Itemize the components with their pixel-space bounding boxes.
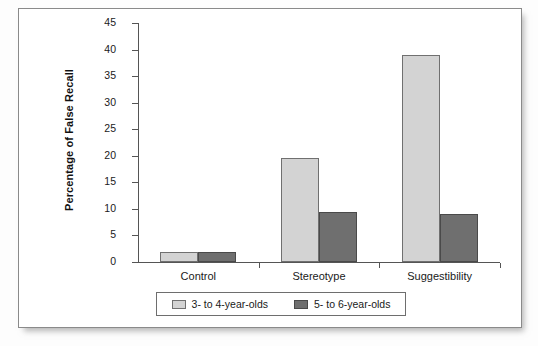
y-axis-tick: 0	[120, 262, 138, 263]
y-axis-tick-mark	[132, 209, 138, 210]
y-axis-tick: 25	[120, 129, 138, 130]
plot-area: 454035302520151050 ControlStereotypeSugg…	[120, 15, 500, 277]
y-axis-tick: 35	[120, 76, 138, 77]
x-axis-line	[138, 262, 500, 263]
y-axis-tick-label: 45	[104, 16, 116, 29]
y-axis-line	[138, 23, 139, 263]
y-axis-tick-mark	[132, 50, 138, 51]
legend-item: 5- to 6-year-olds	[294, 298, 390, 311]
y-axis-tick-label: 35	[104, 69, 116, 82]
legend-swatch	[294, 300, 308, 309]
x-axis-category-label: Stereotype	[259, 269, 380, 283]
y-axis-tick-label: 20	[104, 149, 116, 162]
bar	[160, 252, 198, 262]
y-axis-tick-mark	[132, 103, 138, 104]
y-axis-tick: 5	[120, 235, 138, 236]
legend-label: 5- to 6-year-olds	[314, 298, 390, 311]
y-axis-title: Percentage of False Recall	[62, 40, 76, 240]
bar	[402, 55, 440, 262]
y-axis-tick-mark	[132, 156, 138, 157]
y-axis-tick-label: 25	[104, 122, 116, 135]
x-axis-tick-mark	[379, 263, 380, 268]
x-axis-tick-mark	[259, 263, 260, 268]
y-axis-tick: 15	[120, 182, 138, 183]
y-axis-tick-mark	[132, 23, 138, 24]
y-axis-title-text: Percentage of False Recall	[63, 69, 75, 211]
y-axis-tick-label: 10	[104, 202, 116, 215]
legend: 3- to 4-year-olds5- to 6-year-olds	[156, 292, 406, 316]
y-axis-tick-label: 0	[110, 255, 116, 268]
y-axis-tick: 10	[120, 209, 138, 210]
y-axis-tick-label: 5	[110, 228, 116, 241]
y-axis-tick: 20	[120, 156, 138, 157]
y-axis-tick-label: 30	[104, 96, 116, 109]
legend-swatch	[172, 300, 186, 309]
y-axis-tick-mark	[132, 235, 138, 236]
y-axis-tick-mark	[132, 182, 138, 183]
legend-label: 3- to 4-year-olds	[192, 298, 268, 311]
y-axis-tick-mark	[132, 129, 138, 130]
x-axis-category-label: Control	[138, 269, 259, 283]
y-axis-tick-label: 15	[104, 175, 116, 188]
y-axis-tick-label: 40	[104, 43, 116, 56]
legend-item: 3- to 4-year-olds	[172, 298, 268, 311]
bar	[440, 214, 478, 262]
y-axis-tick-mark	[132, 262, 138, 263]
x-axis-tick-mark	[500, 263, 501, 268]
y-axis-tick-mark	[132, 76, 138, 77]
bar	[198, 252, 236, 262]
bar	[281, 158, 319, 262]
y-axis-tick: 45	[120, 23, 138, 24]
y-axis-tick: 30	[120, 103, 138, 104]
bar	[319, 212, 357, 262]
x-axis-category-label: Suggestibility	[379, 269, 500, 283]
y-axis-tick: 40	[120, 50, 138, 51]
figure-root: Percentage of False Recall 4540353025201…	[0, 0, 538, 346]
